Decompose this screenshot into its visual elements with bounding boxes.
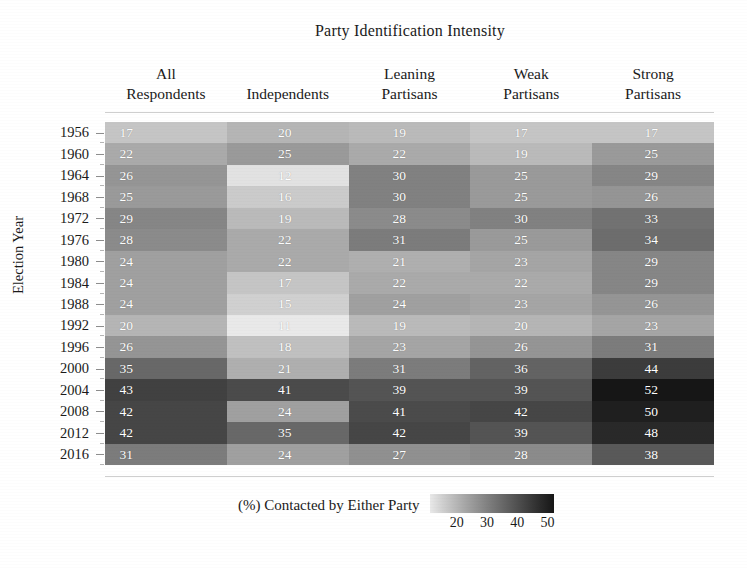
heatmap-cell: 35 bbox=[105, 358, 227, 379]
heatmap-cell: 22 bbox=[470, 272, 592, 293]
heatmap-cell-value: 50 bbox=[645, 405, 659, 419]
heatmap-cell: 44 bbox=[592, 358, 714, 379]
y-axis-title: Election Year bbox=[10, 216, 27, 294]
y-axis-minor-tick bbox=[99, 401, 104, 422]
column-header-line1: Strong bbox=[592, 64, 714, 84]
heatmap-cell: 36 bbox=[470, 358, 592, 379]
heatmap-cell-value: 35 bbox=[278, 426, 292, 440]
heatmap-cell-value: 23 bbox=[645, 319, 659, 333]
y-axis-tick-label: 1976 bbox=[36, 229, 92, 250]
heatmap-cell-value: 43 bbox=[120, 383, 134, 397]
column-header-strong-partisans: Strong Partisans bbox=[592, 48, 714, 106]
heatmap-cell-value: 12 bbox=[278, 169, 292, 183]
y-axis-minor-tick bbox=[99, 122, 104, 143]
y-axis-minor-tick bbox=[99, 444, 104, 465]
colorbar-tick-label: 30 bbox=[480, 515, 494, 531]
heatmap-cell: 31 bbox=[592, 336, 714, 357]
y-axis-tick-label: 2004 bbox=[36, 379, 92, 400]
y-axis-minor-tick bbox=[99, 379, 104, 400]
heatmap-cell-value: 30 bbox=[392, 190, 406, 204]
heatmap-cell: 23 bbox=[592, 315, 714, 336]
heatmap-cell: 31 bbox=[349, 229, 471, 250]
heatmap-cell: 42 bbox=[349, 422, 471, 443]
heatmap-cell: 42 bbox=[470, 401, 592, 422]
heatmap-cell-value: 17 bbox=[514, 126, 528, 140]
heatmap-cell-value: 41 bbox=[392, 405, 406, 419]
heatmap-cell: 12 bbox=[227, 165, 349, 186]
heatmap-cell-value: 29 bbox=[645, 169, 659, 183]
heatmap-cell-value: 31 bbox=[120, 448, 134, 462]
heatmap-cell: 30 bbox=[349, 165, 471, 186]
heatmap-cell: 17 bbox=[227, 272, 349, 293]
heatmap-cell: 24 bbox=[105, 251, 227, 272]
column-header-independents: Independents bbox=[227, 48, 349, 106]
y-axis-minor-tick bbox=[99, 165, 104, 186]
heatmap-cell: 26 bbox=[470, 336, 592, 357]
heatmap-cell: 41 bbox=[349, 401, 471, 422]
column-header-line1: Leaning bbox=[349, 64, 471, 84]
y-axis-minor-tick bbox=[99, 358, 104, 379]
heatmap-cell-value: 22 bbox=[392, 147, 406, 161]
y-axis-tick-label: 2008 bbox=[36, 401, 92, 422]
heatmap-cell: 31 bbox=[105, 444, 227, 465]
heatmap-cell-value: 25 bbox=[514, 233, 528, 247]
heatmap-figure: Party Identification Intensity All Respo… bbox=[0, 0, 747, 568]
y-axis-minor-tick bbox=[99, 143, 104, 164]
heatmap-cell-value: 29 bbox=[645, 276, 659, 290]
heatmap-cell: 18 bbox=[227, 336, 349, 357]
heatmap-cell: 24 bbox=[227, 401, 349, 422]
heatmap-cell-value: 29 bbox=[645, 255, 659, 269]
heatmap-cell: 25 bbox=[470, 165, 592, 186]
heatmap-cell-value: 17 bbox=[120, 126, 134, 140]
heatmap-cell: 24 bbox=[227, 444, 349, 465]
heatmap-cell: 38 bbox=[592, 444, 714, 465]
column-header-weak-partisans: Weak Partisans bbox=[470, 48, 592, 106]
heatmap-cell: 29 bbox=[592, 251, 714, 272]
heatmap-cell-value: 42 bbox=[392, 426, 406, 440]
y-axis-tick-label: 1968 bbox=[36, 186, 92, 207]
heatmap-cell: 26 bbox=[592, 294, 714, 315]
heatmap-grid: 1720191717222522192526123025292516302526… bbox=[105, 122, 714, 465]
y-axis-tick-label: 1992 bbox=[36, 315, 92, 336]
heatmap-cell: 16 bbox=[227, 186, 349, 207]
y-axis-minor-tick bbox=[99, 315, 104, 336]
heatmap-cell: 30 bbox=[470, 208, 592, 229]
heatmap-cell-value: 26 bbox=[514, 340, 528, 354]
y-axis-tick-label: 2012 bbox=[36, 422, 92, 443]
heatmap-cell: 21 bbox=[349, 251, 471, 272]
heatmap-cell: 29 bbox=[592, 165, 714, 186]
heatmap-cell: 26 bbox=[592, 186, 714, 207]
heatmap-cell: 29 bbox=[592, 272, 714, 293]
heatmap-cell-value: 30 bbox=[514, 212, 528, 226]
heatmap-cell: 27 bbox=[349, 444, 471, 465]
heatmap-cell-value: 22 bbox=[278, 255, 292, 269]
column-header-line1: All bbox=[105, 64, 227, 84]
heatmap-cell: 33 bbox=[592, 208, 714, 229]
colorbar-gradient bbox=[430, 494, 554, 513]
y-axis-minor-tick bbox=[99, 186, 104, 207]
heatmap-cell-value: 36 bbox=[514, 362, 528, 376]
heatmap-cell: 25 bbox=[227, 143, 349, 164]
heatmap-cell-value: 24 bbox=[278, 405, 292, 419]
heatmap-cell-value: 34 bbox=[645, 233, 659, 247]
heatmap-cell: 21 bbox=[227, 358, 349, 379]
heatmap-cell-value: 21 bbox=[392, 255, 406, 269]
column-header-line2: Partisans bbox=[470, 84, 592, 104]
heatmap-cell-value: 24 bbox=[120, 255, 134, 269]
heatmap-cell-value: 24 bbox=[120, 297, 134, 311]
heatmap-cell-value: 28 bbox=[392, 212, 406, 226]
heatmap-cell-value: 26 bbox=[120, 340, 134, 354]
heatmap-cell: 20 bbox=[470, 315, 592, 336]
heatmap-cell: 52 bbox=[592, 379, 714, 400]
heatmap-cell: 22 bbox=[227, 251, 349, 272]
heatmap-cell-value: 22 bbox=[514, 276, 528, 290]
bottom-frame-line bbox=[105, 476, 714, 477]
y-axis-tick-label: 1988 bbox=[36, 294, 92, 315]
heatmap-cell-value: 30 bbox=[392, 169, 406, 183]
heatmap-cell-value: 42 bbox=[120, 426, 134, 440]
heatmap-cell-value: 31 bbox=[392, 362, 406, 376]
heatmap-cell: 28 bbox=[105, 229, 227, 250]
heatmap-cell: 17 bbox=[105, 122, 227, 143]
heatmap-cell-value: 28 bbox=[514, 448, 528, 462]
heatmap-cell: 34 bbox=[592, 229, 714, 250]
